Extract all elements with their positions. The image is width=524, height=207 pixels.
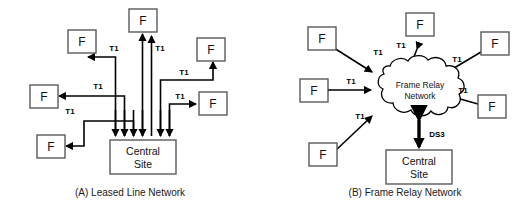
b-remote-node-4: F (406, 13, 434, 36)
b-remote-node-3: F (309, 143, 337, 166)
a-remote-label-3: F (207, 43, 214, 57)
a-link-6-path (170, 104, 197, 136)
a-link-label-3: T1 (65, 107, 75, 116)
b-central-site-label-line2: Site (410, 168, 428, 180)
a-link-label-5: T1 (179, 68, 189, 77)
a-central-site-label-line2: Site (134, 158, 152, 170)
a-link-label-6: T1 (175, 92, 185, 101)
a-remote-node-1: F (68, 30, 96, 53)
b-central-site-label-line1: Central (402, 155, 436, 167)
b-link-label-1: T1 (373, 48, 383, 57)
a-remote-node-2: F (129, 9, 157, 32)
panel-a-leased-line: Central Site F F F F F (30, 9, 227, 198)
b-cloud-label-line1: Frame Relay (396, 80, 445, 90)
panel-b-caption: (B) Frame Relay Network (349, 187, 463, 198)
a-remote-label-6: F (47, 140, 54, 154)
a-central-site-label-line1: Central (126, 145, 160, 157)
b-remote-label-2: F (310, 84, 317, 98)
panel-a-caption: (A) Leased Line Network (75, 187, 186, 198)
a-remote-label-5: F (40, 90, 47, 104)
b-link-label-6: T1 (458, 86, 468, 95)
a-remote-node-6: F (37, 135, 65, 158)
a-link-label-1: T1 (109, 44, 119, 53)
a-remote-node-4: F (199, 92, 227, 115)
a-link-label-4: T1 (155, 44, 165, 53)
a-remote-node-3: F (197, 38, 225, 61)
b-cloud-label-line2: Network (404, 91, 436, 101)
b-link-label-2: T1 (346, 77, 356, 86)
network-comparison-figure: Central Site F F F F F (0, 0, 524, 207)
a-remote-label-2: F (139, 14, 146, 28)
b-remote-label-1: F (318, 32, 325, 46)
a-link-2-path (59, 96, 125, 136)
panel-b-frame-relay: Frame Relay Network Central Site F F F (300, 13, 509, 198)
b-remote-label-6: F (488, 100, 495, 114)
b-remote-label-4: F (416, 18, 423, 32)
b-link-label-5: T1 (452, 55, 462, 64)
b-remote-node-2: F (300, 79, 328, 102)
diagram-canvas: Central Site F F F F F (0, 0, 524, 207)
a-link-label-2: T1 (93, 82, 103, 91)
b-remote-node-6: F (478, 95, 506, 118)
b-trunk-label: DS3 (429, 130, 445, 139)
b-remote-label-3: F (319, 148, 326, 162)
b-link-label-3: T1 (355, 112, 365, 121)
b-link-label-4: T1 (396, 41, 406, 50)
b-remote-label-5: F (491, 37, 498, 51)
a-remote-label-1: F (78, 35, 85, 49)
a-remote-node-5: F (30, 85, 58, 108)
b-remote-node-5: F (481, 32, 509, 55)
b-link-3-path (334, 116, 372, 152)
b-remote-node-1: F (308, 27, 336, 50)
b-link-1-path (334, 48, 372, 72)
a-remote-label-4: F (209, 97, 216, 111)
